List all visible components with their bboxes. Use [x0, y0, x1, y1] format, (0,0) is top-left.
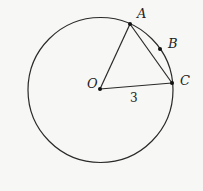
point-a	[128, 22, 132, 26]
segment-ac	[130, 24, 172, 83]
length-oc: 3	[130, 91, 138, 105]
point-b	[158, 47, 162, 51]
label-c: C	[180, 73, 190, 88]
label-a: A	[136, 6, 146, 21]
label-o: O	[87, 76, 98, 91]
segment-oa	[100, 24, 130, 89]
label-b: B	[167, 36, 178, 51]
point-o	[98, 87, 102, 91]
point-c	[170, 81, 174, 85]
segment-oc	[100, 83, 172, 89]
circle-diagram: O A B C 3	[0, 0, 203, 191]
